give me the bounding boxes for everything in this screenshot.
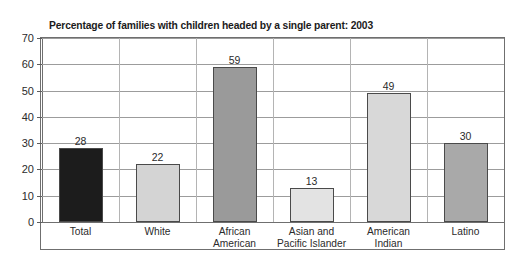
chart-title: Percentage of families with children hea… [40,20,373,31]
y-axis-tick-label: 70 [22,32,34,44]
bar: 13 [290,188,334,222]
bar: 30 [444,143,488,222]
x-axis-category-label: Latino [427,226,504,238]
chart-title-band: Percentage of families with children hea… [40,14,505,38]
y-axis-tick-mark [37,117,42,118]
y-axis-tick-mark [37,38,42,39]
x-axis-baseline [42,222,504,223]
bar: 28 [59,148,103,222]
y-axis-tick-mark [37,64,42,65]
x-axis-category-label: African American [196,226,273,249]
bar-value-label: 59 [229,54,241,66]
x-axis-category-label: Total [42,226,119,238]
y-axis-tick: 40 [42,117,43,118]
category-separator [119,38,120,222]
y-axis-tick: 0 [42,222,43,223]
chart-container: Percentage of families with children hea… [0,0,515,264]
bar: 22 [136,164,180,222]
y-axis-tick: 70 [42,38,43,39]
x-axis-category-label: Asian and Pacific Islander [273,226,350,249]
y-axis-tick: 50 [42,91,43,92]
y-axis-tick-mark [37,196,42,197]
y-axis-tick: 60 [42,64,43,65]
bar-value-label: 28 [75,135,87,147]
bar-value-label: 22 [152,151,164,163]
y-axis-tick-mark [37,143,42,144]
bar: 49 [367,93,411,222]
bar-value-label: 13 [306,175,318,187]
y-axis-tick-label: 10 [22,190,34,202]
y-axis-tick-label: 30 [22,137,34,149]
y-axis-tick-label: 60 [22,58,34,70]
y-axis-tick-label: 50 [22,85,34,97]
category-separator [427,38,428,222]
category-separator [273,38,274,222]
y-axis-tick-label: 0 [28,216,34,228]
category-separator [350,38,351,222]
y-axis-tick: 30 [42,143,43,144]
bar-value-label: 49 [383,80,395,92]
y-axis-tick-mark [37,91,42,92]
x-axis-category-label: American Indian [350,226,427,249]
y-axis-tick-label: 40 [22,111,34,123]
y-axis-tick: 10 [42,196,43,197]
y-axis-tick-mark [37,169,42,170]
x-axis-category-label: White [119,226,196,238]
bar: 59 [213,67,257,222]
plot-area: 010203040506070 282259134930 [42,38,504,222]
y-axis-line [42,38,43,222]
bar-value-label: 30 [460,130,472,142]
y-axis-tick-label: 20 [22,163,34,175]
y-axis-tick-mark [37,222,42,223]
y-axis-tick: 20 [42,169,43,170]
category-separator [196,38,197,222]
